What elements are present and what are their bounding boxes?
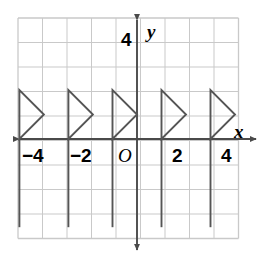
axes xyxy=(19,20,256,250)
coordinate-graph-figure: −4−2O244 x y xyxy=(0,0,265,271)
triangle-2 xyxy=(68,90,93,139)
origin-label: O xyxy=(118,146,132,165)
tick-label-x--4: −4 xyxy=(22,146,44,165)
tick-label-x--2: −2 xyxy=(70,146,92,165)
y-axis-label: y xyxy=(147,22,155,41)
tick-label-x-2: 2 xyxy=(172,146,183,165)
grid-lines xyxy=(18,18,239,239)
graph-canvas xyxy=(0,0,265,271)
tick-label-x-4: 4 xyxy=(221,146,232,165)
triangle-shapes xyxy=(19,90,235,139)
x-axis-label: x xyxy=(234,122,244,141)
triangle-1 xyxy=(19,90,44,139)
tick-label-y-4: 4 xyxy=(121,30,132,49)
